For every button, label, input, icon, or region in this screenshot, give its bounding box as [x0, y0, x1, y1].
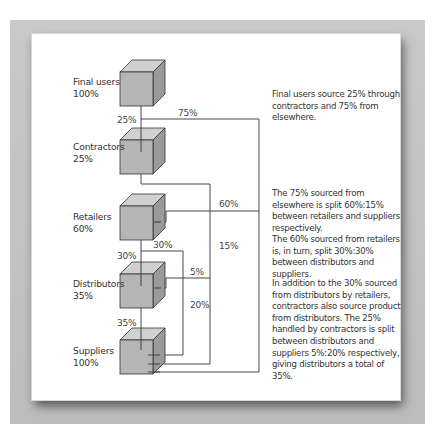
node-label-contractors: Contractors 25%	[73, 141, 125, 165]
node-label-final-users: Final users 100%	[73, 76, 120, 100]
flow-label-final-elsewhere: 75%	[178, 108, 197, 119]
node-name: Retailers	[73, 211, 111, 223]
flow-label-distributors-to-suppliers: 35%	[117, 318, 136, 329]
cube-contractors	[120, 128, 165, 174]
node-name: Final users	[73, 76, 120, 88]
node-share: 25%	[73, 153, 125, 165]
node-label-suppliers: Suppliers 100%	[73, 345, 114, 369]
cube-final-users	[120, 60, 165, 106]
cube-distributors	[120, 262, 165, 308]
note-final-users: Final users source 25% through contracto…	[272, 89, 407, 124]
cube-retailers	[120, 194, 165, 240]
node-share: 100%	[73, 357, 114, 369]
note-contractors-split: In addition to the 30% sourced from dist…	[272, 278, 407, 382]
node-label-retailers: Retailers 60%	[73, 211, 111, 235]
node-name: Contractors	[73, 141, 125, 153]
flow-label-retailers-to-distributors: 30%	[117, 251, 136, 262]
note-elsewhere-split: The 75% sourced from elsewhere is split …	[272, 188, 407, 234]
node-name: Distributors	[73, 278, 124, 290]
flow-label-elsewhere-to-suppliers: 15%	[219, 241, 238, 252]
node-name: Suppliers	[73, 345, 114, 357]
node-share: 100%	[73, 88, 120, 100]
flow-label-elsewhere-to-retailers: 60%	[219, 199, 238, 210]
cube-suppliers	[120, 328, 165, 374]
flow-label-final-to-contractors: 25%	[117, 115, 136, 126]
note-retailers-split: The 60% sourced from retailers is, in tu…	[272, 234, 407, 280]
node-share: 35%	[73, 290, 124, 302]
flow-label-contractors-to-suppliers: 20%	[190, 300, 209, 311]
flow-label-retailers-to-suppliers: 30%	[153, 240, 172, 251]
node-label-distributors: Distributors 35%	[73, 278, 124, 302]
flow-label-contractors-to-distributors: 5%	[190, 267, 204, 278]
node-share: 60%	[73, 223, 111, 235]
